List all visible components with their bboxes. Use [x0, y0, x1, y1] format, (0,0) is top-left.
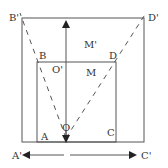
dashed-ray-right	[66, 13, 146, 138]
label-a-prime: A'	[11, 150, 22, 161]
label-b: B	[39, 50, 46, 61]
label-o-prime: O'	[52, 64, 63, 75]
label-d-prime: D'	[148, 12, 159, 23]
label-o: O	[62, 122, 70, 133]
label-m: M	[86, 67, 96, 78]
label-c-prime: C'	[141, 150, 151, 161]
diagram-canvas: B' D' B D M' O' M A C O A' C'	[0, 0, 168, 168]
inner-rectangle	[37, 62, 116, 142]
similar-rectangles-diagram: B' D' B D M' O' M A C O A' C'	[0, 0, 168, 168]
dashed-ray-left	[20, 13, 66, 138]
label-a: A	[40, 131, 49, 142]
label-m-prime: M'	[84, 39, 97, 50]
label-d: D	[109, 50, 117, 61]
outer-rectangle	[22, 18, 144, 142]
label-b-prime: B'	[9, 12, 19, 23]
label-c: C	[107, 127, 115, 138]
